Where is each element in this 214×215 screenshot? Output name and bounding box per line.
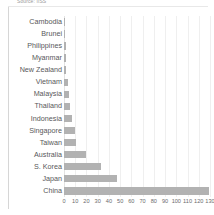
bar-myanmar [64,54,66,61]
x-tick-130: 130 [205,198,214,204]
bar-malaysia [64,91,69,98]
chart-container: Source: IISS CambodiaBruneiPhilippinesMy… [0,0,214,215]
category-label-japan: Japan [10,173,62,185]
x-tick-40: 40 [106,198,112,204]
category-label-philippines: Philippines [10,40,62,52]
x-tick-70: 70 [139,198,145,204]
x-tick-80: 80 [151,198,157,204]
bar-philippines [64,42,66,49]
x-tick-0: 0 [62,198,65,204]
frame-top-border [8,6,208,7]
category-label-cambodia: Cambodia [10,16,62,28]
x-tick-10: 10 [72,198,78,204]
category-label-singapore: Singapore [10,125,62,137]
bar-japan [64,175,117,182]
x-tick-50: 50 [117,198,123,204]
bar-s-korea [64,163,101,170]
bar-brunei [64,30,65,37]
x-tick-120: 120 [194,198,203,204]
frame-left-border [8,6,9,209]
source-note: Source: IISS [17,0,46,4]
x-tick-30: 30 [95,198,101,204]
bar-series [64,16,210,197]
category-label-new-zealand: New Zealand [10,64,62,76]
category-label-myanmar: Myanmar [10,52,62,64]
category-label-thailand: Thailand [10,100,62,112]
category-label-indonesia: Indonesia [10,113,62,125]
bar-china [64,187,209,194]
category-label-brunei: Brunei [10,28,62,40]
category-axis-labels: CambodiaBruneiPhilippinesMyanmarNew Zeal… [10,16,62,197]
gridline-130 [210,16,211,197]
category-label-taiwan: Taiwan [10,137,62,149]
x-tick-90: 90 [162,198,168,204]
x-tick-20: 20 [83,198,89,204]
category-label-china: China [10,185,62,197]
category-label-vietnam: Vietnam [10,76,62,88]
category-label-s-korea: S. Korea [10,161,62,173]
category-label-malaysia: Malaysia [10,88,62,100]
plot-area [64,16,210,197]
x-tick-110: 110 [183,198,192,204]
x-tick-60: 60 [128,198,134,204]
bar-new-zealand [64,66,66,73]
bar-singapore [64,127,75,134]
bar-australia [64,151,86,158]
bar-thailand [64,103,70,110]
x-tick-100: 100 [172,198,181,204]
bar-indonesia [64,115,72,122]
x-axis-tick-labels: 0102030405060708090100110120130 [64,198,214,210]
bar-vietnam [64,79,68,86]
category-label-australia: Australia [10,149,62,161]
bar-taiwan [64,139,76,146]
bar-cambodia [64,18,65,25]
